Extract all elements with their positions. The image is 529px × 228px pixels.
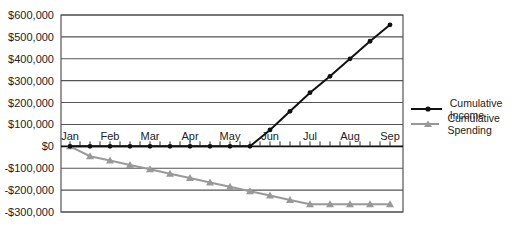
data-point (268, 128, 273, 133)
data-point (168, 144, 173, 149)
series-line (70, 25, 390, 146)
legend: Cumulative Income Cumulative Spending (410, 101, 529, 131)
legend-item-spending: Cumulative Spending (410, 116, 529, 131)
data-point (228, 144, 233, 149)
x-tick-label: Jul (303, 130, 317, 142)
y-tick-label: $200,000 (8, 97, 54, 109)
y-tick-label: -$200,000 (4, 184, 54, 196)
data-point (288, 109, 293, 114)
data-point (148, 144, 153, 149)
data-point (108, 144, 113, 149)
series-cumulative-spending (66, 142, 394, 207)
x-tick-label: Feb (101, 130, 120, 142)
plot-frame (61, 15, 403, 212)
x-tick-label: May (220, 130, 241, 142)
x-tick-label: Apr (181, 130, 198, 142)
data-point (188, 144, 193, 149)
y-tick-label: $0 (42, 140, 54, 152)
data-point (348, 56, 353, 61)
y-tick-label: $600,000 (8, 9, 54, 21)
income-line-marker-icon (410, 104, 442, 114)
data-point (308, 90, 313, 95)
data-point (208, 144, 213, 149)
x-tick-label: Jan (61, 130, 79, 142)
y-tick-label: $400,000 (8, 53, 54, 65)
gridlines (61, 15, 403, 212)
data-point (328, 74, 333, 79)
y-axis-labels: $600,000$500,000$400,000$300,000$200,000… (4, 9, 54, 218)
data-point (368, 39, 373, 44)
data-point (68, 144, 73, 149)
spending-line-marker-icon (410, 119, 439, 129)
data-point (248, 144, 253, 149)
y-tick-label: $500,000 (8, 31, 54, 43)
x-axis-labels: JanFebMarAprMayJunJulAugSep (61, 130, 400, 142)
x-tick-label: Mar (141, 130, 160, 142)
x-tick-label: Sep (380, 130, 400, 142)
series-lines (66, 22, 394, 207)
y-tick-label: $100,000 (8, 118, 54, 130)
data-point (88, 144, 93, 149)
y-tick-label: -$100,000 (4, 162, 54, 174)
y-tick-label: $300,000 (8, 75, 54, 87)
data-point (128, 144, 133, 149)
x-tick-label: Aug (340, 130, 360, 142)
legend-label-spending: Cumulative Spending (447, 112, 529, 136)
data-point (388, 22, 393, 27)
y-tick-label: -$300,000 (4, 206, 54, 218)
series-line (70, 146, 390, 204)
